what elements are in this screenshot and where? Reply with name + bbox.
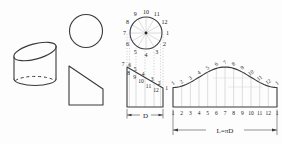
development-top-number: 6 <box>213 60 219 67</box>
development-bottom-number: 11 <box>257 110 263 116</box>
front-upper-number: 2 <box>158 80 161 86</box>
development-top-number: 2 <box>179 78 185 85</box>
development-bottom-number: 7 <box>224 110 227 116</box>
circle-number: 11 <box>154 11 160 17</box>
engineering-drawing: D L=πD 101112123456789765432189101112123… <box>0 0 282 144</box>
development-bottom-number: 9 <box>241 110 244 116</box>
development-bottom-number: 1 <box>172 110 175 116</box>
circle-number: 8 <box>126 19 129 25</box>
diagram-canvas: D L=πD 101112123456789765432189101112123… <box>0 0 282 144</box>
circle-number: 7 <box>123 30 126 36</box>
development-top-number: 3 <box>187 74 193 81</box>
circle-center-dot <box>145 32 148 35</box>
front-upper-number: 7 <box>122 61 125 67</box>
front-lower-number: 12 <box>153 87 159 93</box>
development-bottom-number: 3 <box>189 110 192 116</box>
diameter-dim-label: D <box>143 112 148 120</box>
dimension-arrow-right <box>272 129 277 132</box>
circle-number: 2 <box>163 41 166 47</box>
circle-number: 5 <box>134 49 137 55</box>
front-lower-number: 11 <box>146 83 152 89</box>
development-top-number: 8 <box>231 60 237 67</box>
top-view-circle <box>70 15 103 48</box>
circle-number: 1 <box>166 30 169 36</box>
development-top-number: 1 <box>170 80 176 87</box>
development-top-number: 7 <box>222 59 228 66</box>
development-bottom-number: 6 <box>215 110 218 116</box>
development-top-number: 9 <box>239 64 245 71</box>
cylinder-bottom-front-arc <box>14 79 56 86</box>
front-lower-number: 10 <box>138 78 144 84</box>
circle-number: 4 <box>145 52 148 58</box>
circle-number: 6 <box>126 41 129 47</box>
development-bottom-number: 5 <box>206 110 209 116</box>
front-upper-number: 1 <box>165 85 168 91</box>
circle-number: 12 <box>162 19 168 25</box>
length-dim-label: L=πD <box>217 127 234 135</box>
circle-number: 10 <box>143 9 149 15</box>
side-view <box>69 66 103 105</box>
development-top-number: 4 <box>196 69 202 76</box>
front-upper-number: 6 <box>128 62 131 68</box>
cylinder-bottom-hidden-arc <box>16 76 55 80</box>
front-upper-number: 5 <box>134 66 137 72</box>
development-bottom-number: 12 <box>266 110 272 116</box>
front-upper-number: 3 <box>151 76 154 82</box>
circle-number: 9 <box>134 11 137 17</box>
dimension-d: D <box>127 109 163 120</box>
development-top-number: 1 <box>274 80 280 87</box>
dimension-arrow-left <box>127 114 132 117</box>
numeral-labels: 1011121234567897654321891011121234567891… <box>122 9 280 116</box>
front-lower-number: 8 <box>127 70 130 76</box>
divided-circle-view <box>130 17 162 49</box>
circle-number: 3 <box>155 49 158 55</box>
front-lower-number: 9 <box>133 74 136 80</box>
development-bottom-number: 2 <box>180 110 183 116</box>
oblique-cut-face <box>12 39 58 65</box>
development-view <box>173 67 277 107</box>
development-bottom-number: 4 <box>198 110 201 116</box>
front-upper-number: 4 <box>142 71 145 77</box>
pictorial-truncated-cylinder <box>12 39 58 86</box>
development-bottom-number: 10 <box>248 110 254 116</box>
development-top-number: 12 <box>264 77 272 85</box>
development-bottom-number: 8 <box>232 110 235 116</box>
development-bottom-number: 1 <box>276 110 279 116</box>
dimension-arrow-left <box>173 129 178 132</box>
development-top-number: 5 <box>205 64 211 71</box>
dimension-arrow-right <box>159 114 164 117</box>
